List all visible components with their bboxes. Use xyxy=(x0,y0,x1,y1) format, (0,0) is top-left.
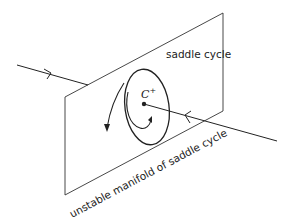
diagram-canvas: saddle cycle C+ unstable manifold of sad… xyxy=(0,0,292,223)
label-saddle-cycle: saddle cycle xyxy=(166,48,231,60)
arrow-head-outer-icon xyxy=(104,124,110,132)
label-unstable-manifold: unstable manifold of saddle cycle xyxy=(67,126,229,219)
flow-outer-arrow xyxy=(107,83,124,128)
saddle-cycle-ellipse xyxy=(120,66,174,147)
incoming-trajectory-left xyxy=(17,65,88,85)
label-c-plus: C+ xyxy=(141,86,156,101)
